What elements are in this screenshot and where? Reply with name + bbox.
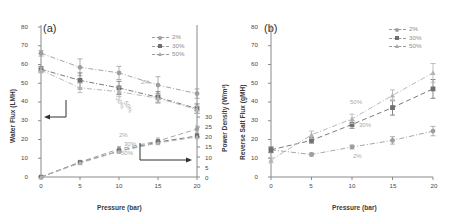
panel-a-series-50pct-power-markers bbox=[39, 135, 200, 179]
panel-b-series-2pct-line bbox=[271, 131, 433, 154]
panel-b: (b) Reverse Salt Flux (gMH) Pressure (ba… bbox=[232, 0, 469, 224]
panel-a-series-50pct-power-line bbox=[41, 137, 197, 177]
power-density-axis-arrow bbox=[140, 143, 192, 162]
panel-a-plot bbox=[0, 0, 232, 224]
panel-b-series-2pct-errorbars bbox=[269, 126, 436, 156]
panel-b-plot bbox=[232, 0, 469, 224]
panel-a-series-30pct-power-line bbox=[41, 136, 197, 177]
panel-a: (a) Water Flux (LMH) Power Density (W/m²… bbox=[0, 0, 232, 224]
figure-container: (a) Water Flux (LMH) Power Density (W/m²… bbox=[0, 0, 469, 224]
water-flux-axis-arrow bbox=[44, 100, 66, 119]
